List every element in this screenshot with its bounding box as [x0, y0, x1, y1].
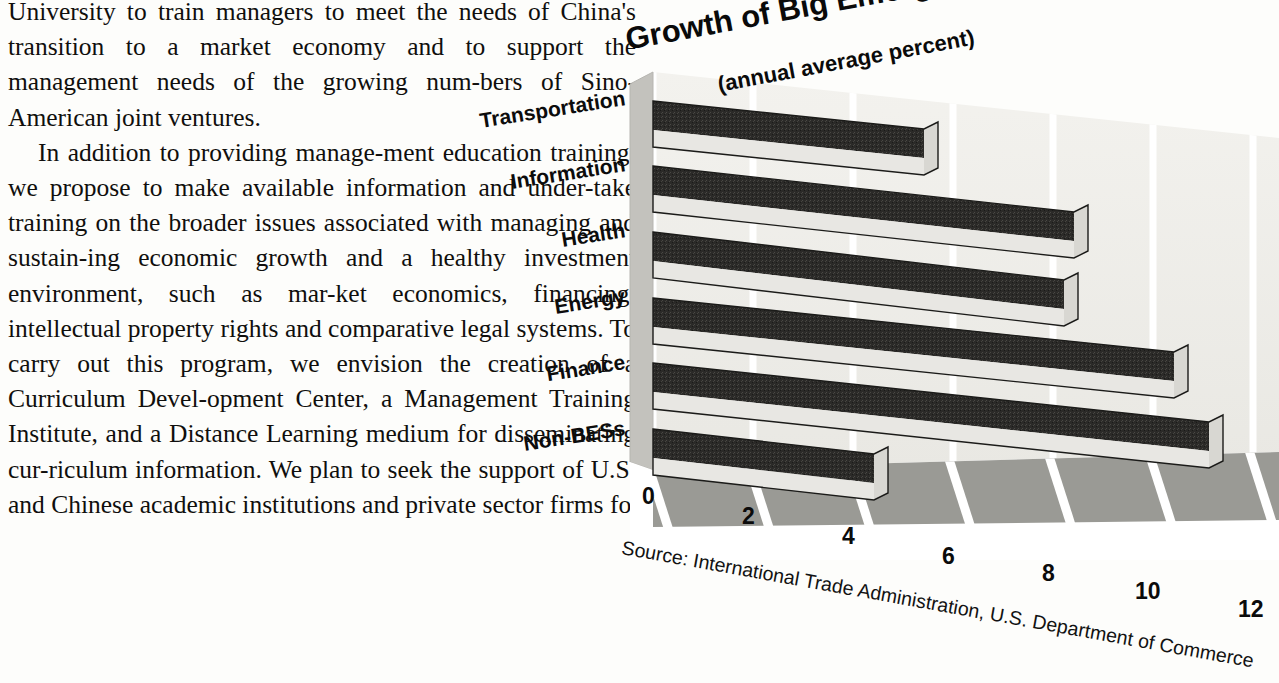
article-body: University to train managers to meet the…: [8, 0, 1276, 683]
chart-text-wrap-spacer-top: [636, 0, 1276, 469]
magazine-page: University to train managers to meet the…: [0, 0, 1279, 683]
